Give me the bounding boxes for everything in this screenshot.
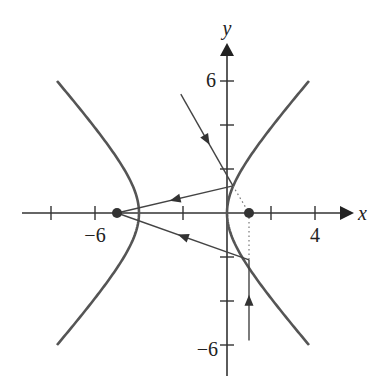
ray-arrow-icon [170,194,182,203]
hyperbola-diagram: −6 4 x 6 −6 y [0,0,389,391]
x-tick-label-neg6: −6 [84,224,105,246]
ray-arrow-icon [245,295,254,306]
x-axis: −6 4 x [22,202,367,246]
x-axis-label: x [357,202,367,224]
y-tick-label-neg6: −6 [197,338,218,360]
left-focus-point [112,208,122,218]
dotted-guides [233,186,249,260]
y-axis-arrow-icon [220,43,234,56]
ray-arrow-icon [178,234,190,242]
y-axis-label: y [221,17,232,40]
light-rays [117,94,254,340]
x-axis-arrow-icon [340,206,354,220]
x-tick-label-4: 4 [310,224,320,246]
y-tick-label-6: 6 [206,69,216,91]
right-focus-point [244,208,254,218]
ray-arrow-icon [200,133,209,145]
